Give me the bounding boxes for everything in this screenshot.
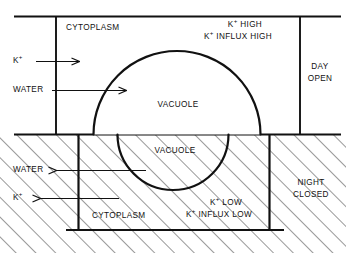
night-k-efflux-arrow-label: K+ xyxy=(13,194,23,202)
night-k-influx-low-text: INFLUX LOW xyxy=(198,210,252,219)
night-k-low-text: LOW xyxy=(222,198,242,207)
day-k-influx-high-label: K+ INFLUX HIGH xyxy=(204,33,272,41)
day-state-line1: DAY xyxy=(311,63,328,71)
day-state-line2: OPEN xyxy=(308,75,333,83)
night-state-line2: CLOSED xyxy=(293,191,329,199)
night-k-low-label: K+ LOW xyxy=(210,199,242,207)
day-cytoplasm-label: CYTOPLASM xyxy=(66,24,120,32)
night-vacuole-label: VACUOLE xyxy=(155,147,196,155)
day-k-arrow-charge: + xyxy=(19,53,23,60)
diagram-svg xyxy=(0,0,346,269)
day-k-high-charge: + xyxy=(234,17,238,24)
night-state-line1: NIGHT xyxy=(297,179,324,187)
night-k-arrow-charge: + xyxy=(19,190,23,197)
day-water-arrow-label: WATER xyxy=(13,86,43,94)
day-vacuole-outline xyxy=(94,51,261,135)
night-k-low-charge: + xyxy=(216,195,220,202)
day-k-high-text: HIGH xyxy=(240,20,262,29)
day-k-influx-high-text: INFLUX HIGH xyxy=(216,32,272,41)
day-vacuole-label: VACUOLE xyxy=(158,101,199,109)
night-k-influx-low-charge: + xyxy=(192,207,196,214)
day-k-influx-arrow-label: K+ xyxy=(13,57,23,65)
night-water-arrow-label: WATER xyxy=(13,166,43,174)
day-k-high-label: K+ HIGH xyxy=(228,21,262,29)
night-cytoplasm-label: CYTOPLASM xyxy=(92,212,146,220)
day-k-influx-high-charge: + xyxy=(210,29,214,36)
night-k-influx-low-label: K+ INFLUX LOW xyxy=(186,211,252,219)
diagram-canvas: CYTOPLASM K+ HIGH K+ INFLUX HIGH K+ WATE… xyxy=(0,0,346,269)
